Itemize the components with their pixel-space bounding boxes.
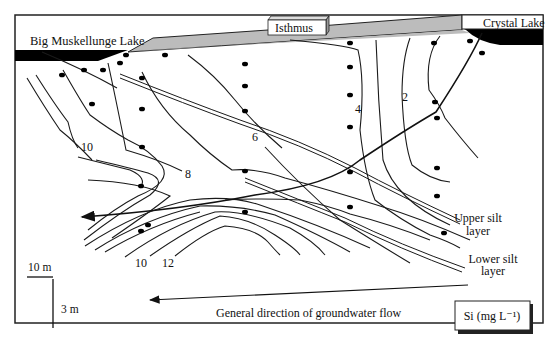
well-dot (81, 68, 87, 73)
scale-vertical-label: 3 m (61, 303, 79, 315)
well-dot (347, 170, 353, 175)
big-muskellunge-lake-label: Big Muskellunge Lake (30, 34, 145, 48)
well-dot (434, 166, 440, 171)
contour-label-10-upper: 10 (81, 140, 93, 154)
well-dot (347, 41, 353, 46)
legend-label: Si (mg L⁻¹) (464, 309, 521, 323)
well-dot (145, 223, 151, 228)
contour-label-2: 2 (402, 90, 408, 104)
contour-label-8: 8 (185, 167, 191, 181)
well-dot (89, 102, 95, 107)
well-dot (100, 68, 106, 73)
well-dot (138, 184, 144, 189)
well-dot (431, 41, 437, 46)
legend-box: Si (mg L⁻¹) (455, 301, 533, 334)
well-dot (432, 100, 438, 105)
well-dot (242, 109, 248, 114)
upper-silt-label-line1: Upper silt (454, 211, 502, 225)
well-dot (347, 125, 353, 130)
figure-frame (15, 15, 543, 323)
well-dot (441, 231, 447, 236)
well-dot (242, 84, 248, 89)
well-dot (59, 73, 65, 78)
well-dot (162, 53, 168, 58)
isthmus-label: Isthmus (275, 21, 313, 35)
si-contour-cross-section: Big Muskellunge Lake Isthmus Crystal Lak… (0, 0, 559, 350)
contour-label-6: 6 (252, 130, 258, 144)
general-flow-label: General direction of groundwater flow (216, 306, 402, 320)
well-dot (347, 93, 353, 98)
well-dot (434, 194, 440, 199)
well-dot (347, 205, 353, 210)
well-dot (138, 229, 144, 234)
contour-label-4: 4 (355, 102, 361, 116)
crystal-lake-label: Crystal Lake (483, 16, 545, 30)
upper-silt-label-line2: layer (466, 224, 490, 238)
well-dot (123, 53, 129, 58)
contour-label-10-lower: 10 (135, 256, 147, 270)
well-dot (117, 61, 123, 66)
well-dot (139, 145, 145, 150)
well-dot (479, 51, 485, 56)
well-dot (434, 116, 440, 121)
lower-silt-label-line2: layer (481, 264, 505, 278)
well-dot (242, 169, 248, 174)
well-dot (139, 107, 145, 112)
well-dot (242, 62, 248, 67)
well-dot (467, 39, 473, 44)
well-dot (139, 76, 145, 81)
well-dot (242, 210, 248, 215)
contour-label-12: 12 (162, 256, 174, 270)
well-dot (347, 65, 353, 70)
scale-horizontal-label: 10 m (28, 261, 51, 273)
